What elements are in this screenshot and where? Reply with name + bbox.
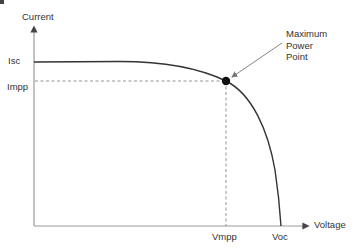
annotation-line-1: Maximum bbox=[286, 28, 327, 40]
x-axis-label: Voltage bbox=[314, 220, 346, 230]
vmpp-tick-label: Vmpp bbox=[212, 232, 237, 242]
isc-tick-label: Isc bbox=[8, 56, 20, 66]
voc-tick-label: Voc bbox=[272, 232, 288, 242]
maximum-power-point-annotation: Maximum Power Point bbox=[286, 28, 327, 63]
iv-curve bbox=[34, 62, 281, 227]
impp-tick-label: Impp bbox=[7, 82, 28, 92]
y-axis-label: Current bbox=[22, 12, 54, 22]
annotation-arrow bbox=[232, 43, 282, 77]
annotation-line-2: Power bbox=[286, 40, 327, 52]
maximum-power-point-marker bbox=[222, 77, 230, 85]
annotation-line-3: Point bbox=[286, 51, 327, 63]
